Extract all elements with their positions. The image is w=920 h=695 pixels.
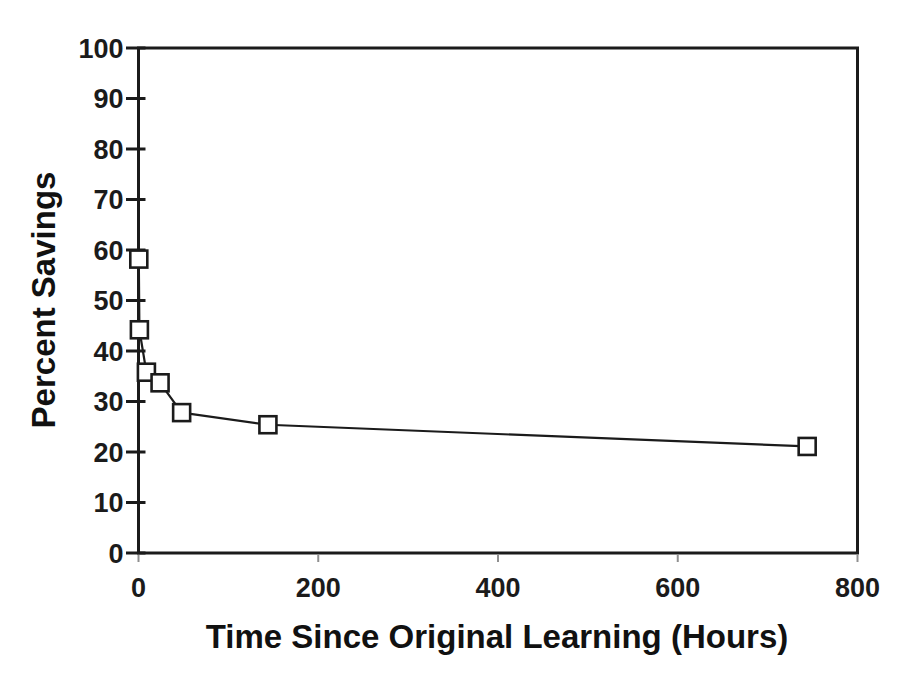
y-tick-label: 90 (93, 84, 123, 114)
y-tick-label: 60 (93, 236, 123, 266)
y-tick-label: 20 (93, 438, 123, 468)
x-tick-label: 800 (835, 573, 880, 603)
data-point-marker (152, 374, 169, 391)
y-tick-label: 0 (108, 539, 123, 569)
data-point-marker (259, 416, 276, 433)
data-point-marker (173, 404, 190, 421)
y-tick-label: 40 (93, 337, 123, 367)
data-point-marker (130, 251, 147, 268)
x-tick-label: 600 (655, 573, 700, 603)
y-axis-title: Percent Savings (25, 172, 62, 429)
data-point-marker (799, 438, 816, 455)
x-axis-title: Time Since Original Learning (Hours) (206, 618, 789, 655)
line-chart: 01020304050607080901000200400600800 Time… (0, 0, 920, 695)
y-tick-label: 10 (93, 488, 123, 518)
plot-frame (139, 48, 858, 553)
forgetting-curve-figure: 01020304050607080901000200400600800 Time… (0, 0, 920, 695)
x-tick-label: 200 (296, 573, 341, 603)
y-tick-label: 70 (93, 185, 123, 215)
data-point-marker (131, 321, 148, 338)
x-tick-label: 400 (475, 573, 520, 603)
y-tick-label: 30 (93, 387, 123, 417)
y-tick-label: 100 (78, 34, 123, 64)
x-tick-label: 0 (131, 573, 146, 603)
plot-area: 01020304050607080901000200400600800 (78, 34, 880, 604)
y-tick-label: 50 (93, 286, 123, 316)
series-line (139, 259, 807, 446)
y-tick-label: 80 (93, 135, 123, 165)
